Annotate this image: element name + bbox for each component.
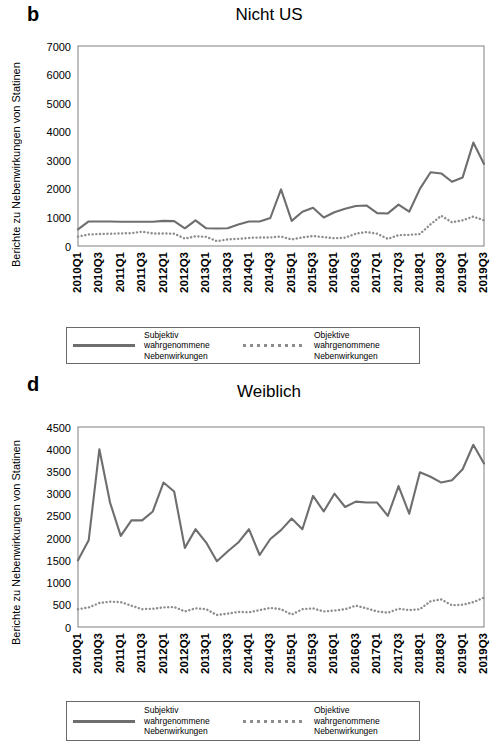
legend-entry-objective-b: Objektive wahrgenommene Nebenwirkungen xyxy=(243,330,413,362)
legend-label-objective: Objektive wahrgenommene Nebenwirkungen xyxy=(314,705,380,737)
figure-page: b Nicht US Berichte zu Nebenwirkungen vo… xyxy=(0,0,498,743)
panel-letter-d: d xyxy=(27,374,39,394)
y-tick-label: 5000 xyxy=(47,98,71,110)
x-tick-label: 2013Q3 xyxy=(221,252,233,293)
legend-b: Subjektiv wahrgenommene Nebenwirkungen O… xyxy=(66,327,420,364)
x-tick-label: 2015Q1 xyxy=(285,632,297,674)
x-tick-label: 2010Q3 xyxy=(92,633,104,674)
x-tick-label: 2015Q1 xyxy=(285,251,297,293)
x-tick-label: 2012Q3 xyxy=(178,633,190,674)
legend-dotted-line-icon xyxy=(243,715,305,727)
x-tick-label: 2012Q1 xyxy=(157,632,169,674)
x-tick-label: 2011Q1 xyxy=(114,632,126,673)
legend-label-subjective: Subjektiv wahrgenommene Nebenwirkungen xyxy=(144,705,210,737)
x-tick-label: 2016Q3 xyxy=(349,633,361,674)
x-tick-label: 2011Q3 xyxy=(135,633,147,673)
x-tick-label: 2019Q1 xyxy=(456,632,468,674)
y-tick-label: 1000 xyxy=(47,577,71,589)
x-tick-label: 2016Q1 xyxy=(327,632,339,674)
chart-b: 010002000300040005000600070002010Q12010Q… xyxy=(0,30,498,325)
y-tick-label: 4000 xyxy=(47,126,71,138)
y-tick-label: 4000 xyxy=(47,444,71,456)
y-tick-label: 2000 xyxy=(47,183,71,195)
x-tick-label: 2012Q1 xyxy=(157,251,169,293)
series-subjective xyxy=(78,445,484,561)
y-tick-label: 4500 xyxy=(47,422,71,434)
legend-d: Subjektiv wahrgenommene Nebenwirkungen O… xyxy=(66,701,420,741)
x-tick-label: 2015Q3 xyxy=(306,252,318,293)
x-tick-label: 2017Q3 xyxy=(392,252,404,293)
y-tick-label: 7000 xyxy=(47,41,71,53)
legend-dotted-line-icon xyxy=(243,340,305,352)
x-tick-label: 2013Q1 xyxy=(199,632,211,674)
x-tick-label: 2014Q3 xyxy=(263,633,275,674)
panel-letter-b: b xyxy=(27,4,39,24)
x-tick-label: 2018Q1 xyxy=(413,632,425,674)
y-tick-label: 2000 xyxy=(47,533,71,545)
x-tick-label: 2017Q1 xyxy=(370,632,382,674)
legend-solid-line-icon xyxy=(73,715,135,727)
x-tick-label: 2014Q1 xyxy=(242,632,254,674)
y-tick-label: 2500 xyxy=(47,510,71,522)
x-tick-label: 2016Q3 xyxy=(349,252,361,293)
legend-entry-objective-d: Objektive wahrgenommene Nebenwirkungen xyxy=(243,705,413,737)
x-tick-label: 2013Q1 xyxy=(199,251,211,293)
y-tick-label: 3000 xyxy=(47,488,71,500)
legend-solid-line-icon xyxy=(73,340,135,352)
x-tick-label: 2017Q3 xyxy=(392,633,404,674)
y-tick-label: 0 xyxy=(65,622,71,634)
x-tick-label: 2013Q3 xyxy=(221,633,233,674)
panel-title-b: Nicht US xyxy=(149,6,389,23)
series-subjective xyxy=(78,143,484,230)
x-tick-label: 2014Q3 xyxy=(263,252,275,293)
x-tick-label: 2012Q3 xyxy=(178,252,190,293)
y-tick-label: 6000 xyxy=(47,69,71,81)
y-tick-label: 3000 xyxy=(47,155,71,167)
x-tick-label: 2015Q3 xyxy=(306,633,318,674)
chart-d: 0500100015002000250030003500400045002010… xyxy=(0,405,498,695)
legend-label-objective: Objektive wahrgenommene Nebenwirkungen xyxy=(314,330,380,362)
x-tick-label: 2018Q3 xyxy=(434,252,446,293)
panel-title-d: Weiblich xyxy=(149,383,389,400)
y-tick-label: 1000 xyxy=(47,212,71,224)
x-tick-label: 2014Q1 xyxy=(242,251,254,293)
x-tick-label: 2019Q3 xyxy=(477,633,489,674)
y-tick-label: 500 xyxy=(53,599,71,611)
x-tick-label: 2018Q3 xyxy=(434,633,446,674)
y-tick-label: 0 xyxy=(65,241,71,253)
x-tick-label: 2010Q1 xyxy=(71,251,83,293)
x-tick-label: 2010Q3 xyxy=(92,252,104,293)
x-tick-label: 2016Q1 xyxy=(327,251,339,293)
series-objective xyxy=(78,216,484,241)
series-objective xyxy=(78,598,484,615)
legend-entry-subjective-b: Subjektiv wahrgenommene Nebenwirkungen xyxy=(73,330,243,362)
x-tick-label: 2018Q1 xyxy=(413,251,425,293)
x-tick-label: 2019Q3 xyxy=(477,252,489,293)
x-tick-label: 2019Q1 xyxy=(456,251,468,293)
y-tick-label: 3500 xyxy=(47,466,71,478)
x-tick-label: 2011Q1 xyxy=(114,251,126,292)
legend-entry-subjective-d: Subjektiv wahrgenommene Nebenwirkungen xyxy=(73,705,243,737)
x-tick-label: 2011Q3 xyxy=(135,252,147,292)
y-tick-label: 1500 xyxy=(47,555,71,567)
x-tick-label: 2010Q1 xyxy=(71,632,83,674)
legend-label-subjective: Subjektiv wahrgenommene Nebenwirkungen xyxy=(144,330,210,362)
x-tick-label: 2017Q1 xyxy=(370,251,382,293)
